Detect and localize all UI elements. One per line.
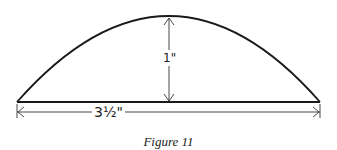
figure-caption: Figure 11 — [0, 134, 337, 150]
width-dimension-label: 3½" — [92, 105, 125, 119]
arc-diagram-figure: 3½" 1" Figure 11 — [0, 0, 337, 150]
arc-diagram-svg — [0, 0, 337, 150]
height-dimension-label: 1" — [163, 50, 176, 66]
